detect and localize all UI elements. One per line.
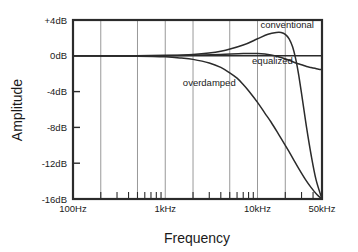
x-tick-label: 100Hz [59,203,87,214]
plot-frame [73,20,322,199]
x-tick-label: 1kHz [154,203,176,214]
bode-plot-chart: 100Hz1kHz10kHz50kHz +4dB0dB-4dB-8dB-12dB… [0,0,358,252]
curve-label-overdamped: overdamped [183,77,236,88]
y-tick-label: 0dB [50,50,67,61]
y-tick-label: -12dB [42,158,67,169]
y-axis-tick-labels: +4dB0dB-4dB-8dB-12dB-16dB [42,15,67,205]
gridlines [101,20,286,199]
x-axis-title: Frequency [164,230,230,246]
curve-label-conventional: conventional [261,19,314,30]
y-tick-label: -4dB [47,86,67,97]
y-axis-title: Amplitude [9,79,25,141]
curve-label-equalized: equalized [252,55,293,66]
x-tick-label: 10kHz [244,203,271,214]
y-tick-label: -8dB [47,122,67,133]
x-axis-tick-labels: 100Hz1kHz10kHz50kHz [59,203,335,214]
x-tick-label: 50kHz [309,203,336,214]
y-tick-label: -16dB [42,194,67,205]
y-tick-label: +4dB [45,15,67,26]
chart-canvas: 100Hz1kHz10kHz50kHz +4dB0dB-4dB-8dB-12dB… [0,0,358,252]
